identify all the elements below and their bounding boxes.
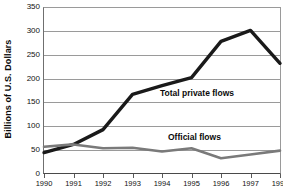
y-axis-tick-label: 300 xyxy=(14,27,40,35)
x-axis-tick-label: 1991 xyxy=(65,179,82,188)
x-axis-tick-mark xyxy=(280,174,281,178)
y-axis-tick-label: 100 xyxy=(14,122,40,130)
x-axis-tick-label: 1990 xyxy=(36,179,53,188)
x-axis-tick-mark xyxy=(221,174,222,178)
x-axis-tick-mark xyxy=(103,174,104,178)
y-axis-tick-label: 200 xyxy=(14,75,40,83)
x-axis-tick-mark xyxy=(74,174,75,178)
y-axis-tick-label: 0 xyxy=(14,170,40,178)
annotation-official-flows: Official flows xyxy=(168,132,221,142)
x-axis-tick-label: 1996 xyxy=(213,179,230,188)
x-axis-tick-label: 1998 xyxy=(272,179,283,188)
x-axis-tick-mark xyxy=(251,174,252,178)
x-axis-tick-mark xyxy=(162,174,163,178)
annotation-total-private-flows: Total private flows xyxy=(160,88,234,98)
y-axis-tick-label: 350 xyxy=(14,3,40,11)
x-axis-tick-mark xyxy=(44,174,45,178)
x-axis-tick-label: 1997 xyxy=(242,179,259,188)
y-axis-tick-label: 50 xyxy=(14,146,40,154)
y-axis-title: Billions of U.S. Dollars xyxy=(3,40,13,139)
series-line-official-flows xyxy=(44,144,280,158)
x-axis-tick-label: 1995 xyxy=(183,179,200,188)
x-axis-tick-mark xyxy=(133,174,134,178)
chart-container: Billions of U.S. Dollars 350300250200150… xyxy=(0,0,283,191)
y-axis-tick-labels: 350300250200150100500 xyxy=(14,0,40,191)
y-axis-tick-label: 150 xyxy=(14,98,40,106)
y-axis-tick-label: 250 xyxy=(14,51,40,59)
x-axis-tick-label: 1994 xyxy=(154,179,171,188)
x-axis-tick-label: 1992 xyxy=(95,179,112,188)
x-axis-tick-label: 1993 xyxy=(124,179,141,188)
x-axis-tick-mark xyxy=(192,174,193,178)
